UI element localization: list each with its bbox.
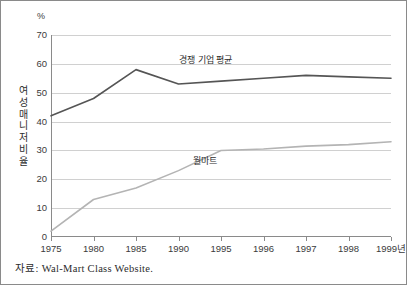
y-axis-unit-label: % [37, 11, 45, 21]
y-axis-title-char: 율 [16, 156, 30, 168]
x-axis-tick-label: 1997 [295, 244, 316, 254]
x-axis-tick-label: 1998 [338, 244, 359, 254]
x-axis-tickmark [264, 237, 265, 241]
x-axis-tick-label: 1975 [40, 244, 61, 254]
x-axis-tick-label: 1995 [210, 244, 231, 254]
x-axis-tickmark [349, 237, 350, 241]
line-walmart [51, 142, 391, 231]
x-axis-tick-label: 1996 [253, 244, 274, 254]
y-axis-tick-label: 30 [25, 146, 47, 156]
x-axis-tickmark [306, 237, 307, 241]
y-axis-title-char: 저 [16, 132, 30, 144]
x-axis-tick-label: 1980 [83, 244, 104, 254]
chart-figure: % 여 성 매 니 저 비 율 010203040506070 19751980… [0, 0, 407, 285]
x-axis-tickmark [51, 237, 52, 241]
x-axis-tickmark [221, 237, 222, 241]
y-axis-tick-label: 50 [25, 88, 47, 98]
plot-area [51, 35, 391, 237]
series-label-competitor-average: 경쟁 기업 평균 [179, 56, 232, 65]
x-axis-tick-label: 1985 [125, 244, 146, 254]
y-axis-tick-label: 40 [25, 117, 47, 127]
x-axis-tick-label: 1990 [168, 244, 189, 254]
series-label-walmart: 월마트 [193, 157, 217, 166]
series-lines [51, 35, 391, 237]
y-axis-tick-label: 60 [25, 59, 47, 69]
line-competitor-average [51, 70, 391, 116]
source-note: 자료: Wal-Mart Class Website. [15, 260, 153, 275]
y-axis-tick-label: 0 [25, 232, 47, 242]
y-axis-tick-label: 20 [25, 175, 47, 185]
x-axis-tickmark [94, 237, 95, 241]
y-axis-title-char: 성 [16, 97, 30, 109]
y-axis-tick-label: 10 [25, 203, 47, 213]
y-axis-tick-label: 70 [25, 30, 47, 40]
x-axis-tickmark [136, 237, 137, 241]
x-axis-tickmark [179, 237, 180, 241]
x-axis-tick-label: 1999년 [376, 244, 406, 254]
x-axis-tickmark [391, 237, 392, 241]
